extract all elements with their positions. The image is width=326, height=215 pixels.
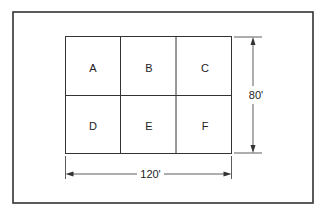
arrow-right-icon (224, 172, 232, 177)
cell-label-e: E (145, 120, 152, 132)
height-label: 80' (249, 89, 263, 101)
cell-label-b: B (145, 62, 152, 74)
width-label: 120' (140, 168, 160, 180)
cell-label-f: F (202, 120, 209, 132)
outer-frame (13, 12, 313, 203)
cell-label-a: A (89, 62, 97, 74)
arrow-up-icon (251, 37, 256, 45)
diagram-canvas: A B C D E F 80' 120' (0, 0, 326, 215)
arrow-down-icon (251, 145, 256, 153)
plot-grid (66, 37, 232, 154)
cell-label-c: C (201, 62, 209, 74)
cell-label-d: D (89, 120, 97, 132)
arrow-left-icon (66, 172, 74, 177)
